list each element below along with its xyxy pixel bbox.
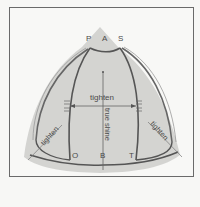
label-p: P xyxy=(86,34,91,43)
label-a: A xyxy=(102,34,108,43)
label-t: T xyxy=(129,151,134,160)
label-s: S xyxy=(118,34,123,43)
sail-diagram: P A S O B T tighten true shine tighten t… xyxy=(0,0,200,207)
label-tighten-center: tighten xyxy=(90,93,114,102)
label-b: B xyxy=(100,151,105,160)
label-o: O xyxy=(72,151,78,160)
label-true-shine: true shine xyxy=(103,108,112,141)
vertical-axis-dot xyxy=(102,71,104,73)
